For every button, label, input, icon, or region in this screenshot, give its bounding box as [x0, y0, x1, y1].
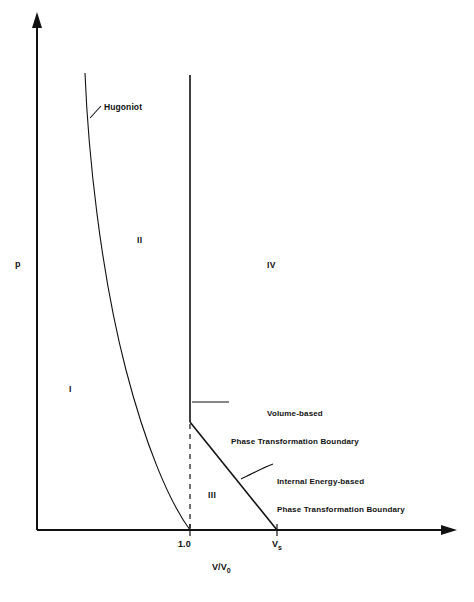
volume-boundary-annotation-line2: Phase Transformation Boundary	[231, 437, 359, 446]
volume-boundary-annotation: Volume-based Phase Transformation Bounda…	[231, 390, 359, 466]
hugoniot-curve	[85, 73, 190, 530]
region-label-ii: II	[137, 235, 143, 245]
region-label-i: I	[69, 384, 72, 394]
x-tick-label-vs: Vs	[272, 539, 282, 552]
x-tick-label-vs-subscript: s	[278, 544, 282, 551]
energy-boundary-annotation: Internal Energy-based Phase Transformati…	[277, 458, 405, 534]
x-axis-label-subscript: 0	[227, 567, 231, 574]
energy-boundary-annotation-line2: Phase Transformation Boundary	[277, 505, 405, 514]
energy-boundary-leader-line	[241, 464, 273, 479]
phase-diagram-figure: p V/V0 1.0 Vs I II III IV Hugoniot Volum…	[0, 0, 474, 602]
hugoniot-label: Hugoniot	[104, 102, 142, 112]
hugoniot-leader-line	[90, 106, 101, 118]
region-label-iv: IV	[267, 260, 276, 270]
x-tick-label-1p0: 1.0	[178, 539, 191, 550]
energy-boundary-annotation-line1: Internal Energy-based	[277, 477, 405, 486]
y-axis	[32, 12, 42, 530]
x-axis-label: V/V0	[212, 562, 231, 575]
y-axis-label: p	[15, 259, 21, 270]
volume-boundary-annotation-line1: Volume-based	[231, 409, 359, 418]
x-axis-label-main: V/V	[212, 562, 227, 572]
region-label-iii: III	[208, 490, 216, 500]
